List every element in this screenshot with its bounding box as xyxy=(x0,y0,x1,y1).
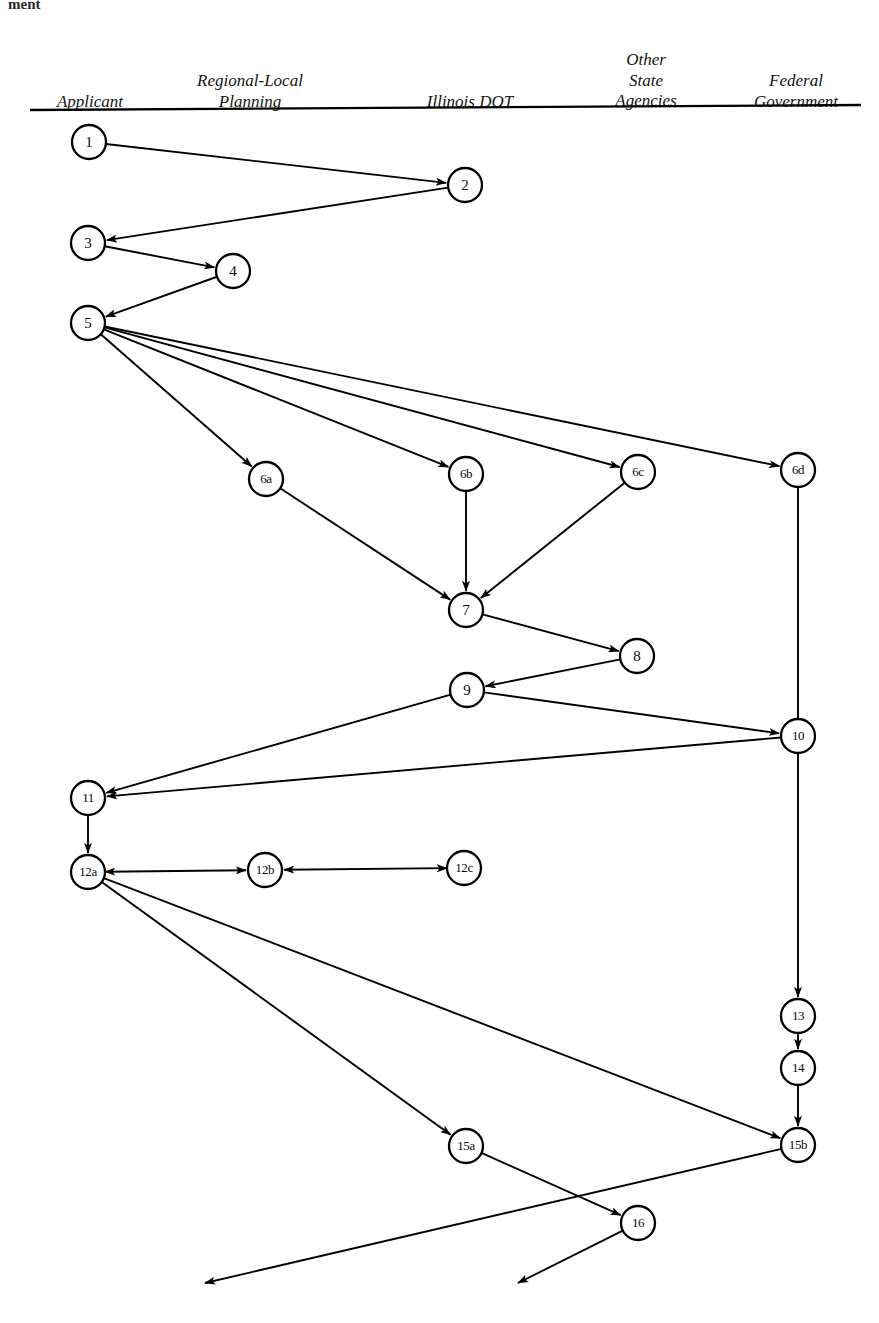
node-circle-16[interactable] xyxy=(621,1206,655,1240)
node-circle-15b[interactable] xyxy=(781,1128,815,1162)
node-circle-8[interactable] xyxy=(620,639,654,673)
edge-3-to-4 xyxy=(105,246,215,267)
exit-from-16 xyxy=(518,1231,623,1283)
node-circle-10[interactable] xyxy=(781,719,815,753)
nodes-layer xyxy=(71,125,815,1240)
header-divider-rule xyxy=(30,105,861,110)
edge-5-to-6d xyxy=(105,326,780,466)
node-circle-11[interactable] xyxy=(71,781,105,815)
edge-15a-to-16 xyxy=(482,1153,621,1215)
node-circle-15a[interactable] xyxy=(449,1129,483,1163)
edge-4-to-5 xyxy=(106,277,217,317)
node-circle-12a[interactable] xyxy=(71,855,105,889)
edge-5-to-6c xyxy=(104,327,619,467)
edge-9-to-10 xyxy=(484,692,779,733)
node-circle-4[interactable] xyxy=(216,254,250,288)
edges-layer xyxy=(88,144,798,1283)
node-circle-3[interactable] xyxy=(71,226,105,260)
edge-10-to-11 xyxy=(107,737,781,796)
edge-1-to-2 xyxy=(106,144,446,183)
edge-8-to-9 xyxy=(486,659,621,686)
edge-12c-to-12b xyxy=(284,868,447,870)
node-circle-13[interactable] xyxy=(781,999,815,1033)
node-circle-2[interactable] xyxy=(448,168,482,202)
edge-6c-to-7 xyxy=(481,483,625,598)
edge-9-to-11 xyxy=(106,695,450,793)
node-circle-6d[interactable] xyxy=(781,453,815,487)
node-circle-5[interactable] xyxy=(71,306,105,340)
node-circle-9[interactable] xyxy=(450,673,484,707)
edge-2-to-3 xyxy=(107,188,448,241)
edge-5-to-6a xyxy=(101,334,252,466)
exit-from-15b xyxy=(205,1149,781,1283)
node-circle-1[interactable] xyxy=(72,125,106,159)
node-circle-6a[interactable] xyxy=(249,462,283,496)
node-circle-12c[interactable] xyxy=(447,851,481,885)
node-circle-6b[interactable] xyxy=(449,457,483,491)
node-circle-14[interactable] xyxy=(781,1051,815,1085)
edge-5-to-6b xyxy=(104,329,449,467)
node-circle-12b[interactable] xyxy=(248,853,282,887)
flowchart-canvas xyxy=(0,0,879,1323)
edge-6a-to-7 xyxy=(280,488,450,599)
edge-7-to-8 xyxy=(482,614,618,651)
edge-12a-to-15a xyxy=(102,882,451,1135)
flowchart-figure: ment ApplicantRegional-Local PlanningIll… xyxy=(0,0,879,1323)
edge-12a-to-15b xyxy=(104,878,780,1138)
header-rule-layer xyxy=(30,105,861,110)
edge-12a-to-12b xyxy=(105,870,246,872)
node-circle-7[interactable] xyxy=(449,593,483,627)
node-circle-6c[interactable] xyxy=(621,455,655,489)
